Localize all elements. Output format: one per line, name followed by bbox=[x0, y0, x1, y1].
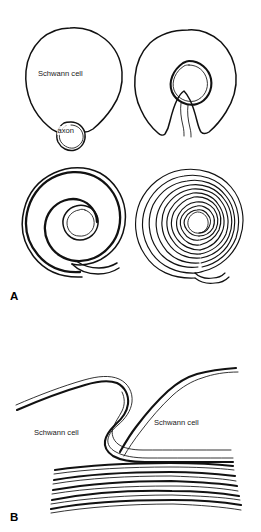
schwann-cell-outline-stage1 bbox=[26, 28, 122, 132]
myelin-lamella-1 bbox=[55, 463, 233, 470]
axon-outline-stage1 bbox=[57, 122, 85, 151]
myelin-lamella-3 bbox=[53, 481, 237, 490]
myelination-figure-canvas bbox=[0, 0, 261, 532]
stage-1-axon-engulfment-start bbox=[26, 28, 122, 151]
mesaxon-channel-2-stage2 bbox=[188, 105, 191, 137]
stage-3-early-spiral bbox=[22, 168, 125, 277]
figure-root: Schwann cell axon A Schwann cell Schwann… bbox=[0, 0, 261, 532]
right-schwann-membrane-inner bbox=[124, 372, 238, 456]
mesaxon-channel-stage2 bbox=[181, 103, 184, 136]
myelin-wrap-9 bbox=[180, 206, 214, 240]
axon-lumen-stage4 bbox=[188, 212, 208, 233]
axon-circle-stage3 bbox=[67, 209, 94, 236]
spiral-wrap-outer-stage3 bbox=[26, 172, 120, 272]
myelin-spiral-tail-stage4 bbox=[195, 273, 225, 278]
right-schwann-membrane-outer bbox=[120, 368, 236, 452]
panel-b-node-region bbox=[16, 368, 241, 513]
myelin-wrap-7 bbox=[172, 197, 221, 250]
myelin-wrap-8 bbox=[177, 202, 218, 245]
stage-2-axon-enclosed bbox=[135, 30, 236, 137]
node-inner-channel-line bbox=[112, 392, 231, 450]
stage-4-compact-myelin bbox=[136, 169, 243, 283]
spiral-wrap-inner-stage3 bbox=[63, 205, 98, 240]
schwann-cell-outline-stage2 bbox=[135, 30, 236, 135]
